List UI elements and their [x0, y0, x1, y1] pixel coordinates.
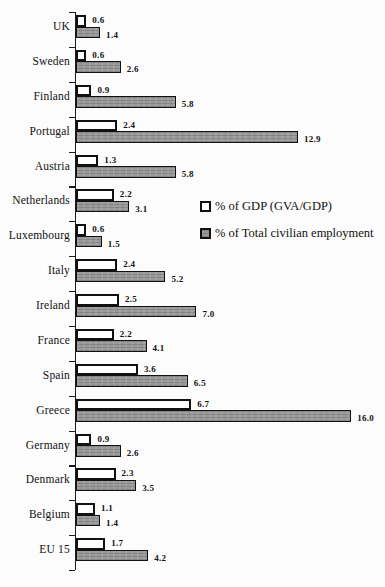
- legend-label-gdp: % of GDP (GVA/GDP): [215, 199, 332, 214]
- axis-tick: [69, 82, 75, 83]
- employment-value-label: 3.1: [135, 204, 147, 215]
- employment-value-label: 4.1: [153, 343, 165, 354]
- employment-bar: [76, 236, 102, 248]
- bar-chart: UK0.61.4Sweden0.62.6Finland0.95.8Portuga…: [0, 0, 385, 587]
- gdp-bar: [76, 399, 191, 411]
- gdp-value-label: 2.2: [120, 189, 132, 200]
- gdp-value-label: 2.4: [123, 259, 135, 270]
- employment-series-swatch-icon: [200, 228, 211, 239]
- employment-bar: [76, 375, 188, 387]
- employment-bar: [76, 131, 298, 143]
- employment-value-label: 3.5: [142, 483, 154, 494]
- employment-bar: [76, 61, 121, 73]
- category-label: Luxembourg: [0, 228, 70, 242]
- employment-bar: [76, 445, 121, 457]
- axis-tick: [69, 221, 75, 222]
- employment-value-label: 7.0: [202, 309, 214, 320]
- employment-bar: [76, 27, 100, 39]
- gdp-series-swatch-icon: [200, 201, 211, 212]
- axis-tick: [69, 535, 75, 536]
- employment-bar: [76, 550, 148, 562]
- gdp-bar: [76, 85, 91, 97]
- gdp-bar: [76, 189, 114, 201]
- employment-value-label: 5.2: [171, 274, 183, 285]
- category-label: Netherlands: [0, 193, 70, 207]
- axis-tick: [69, 396, 75, 397]
- gdp-value-label: 0.6: [92, 15, 104, 26]
- gdp-value-label: 0.6: [92, 50, 104, 61]
- legend-label-employment: % of Total civilian employment: [215, 226, 374, 241]
- gdp-bar: [76, 294, 119, 306]
- employment-bar: [76, 306, 196, 318]
- category-label: Italy: [0, 263, 70, 277]
- gdp-value-label: 0.6: [92, 224, 104, 235]
- employment-value-label: 5.8: [182, 169, 194, 180]
- gdp-value-label: 2.5: [125, 294, 137, 305]
- gdp-value-label: 0.9: [97, 85, 109, 96]
- employment-bar: [76, 480, 136, 492]
- category-label: UK: [0, 19, 70, 33]
- gdp-bar: [76, 15, 86, 27]
- axis-tick: [69, 570, 75, 571]
- gdp-bar: [76, 224, 86, 236]
- gdp-value-label: 2.3: [122, 468, 134, 479]
- axis-tick: [69, 47, 75, 48]
- employment-value-label: 5.8: [182, 99, 194, 110]
- axis-tick: [69, 326, 75, 327]
- employment-value-label: 2.6: [127, 448, 139, 459]
- category-label: Denmark: [0, 472, 70, 486]
- gdp-bar: [76, 503, 95, 515]
- gdp-value-label: 1.7: [111, 538, 123, 549]
- gdp-bar: [76, 50, 86, 62]
- category-label: Portugal: [0, 124, 70, 138]
- gdp-value-label: 6.7: [197, 399, 209, 410]
- gdp-value-label: 2.2: [120, 329, 132, 340]
- axis-tick: [69, 291, 75, 292]
- employment-bar: [76, 410, 351, 422]
- category-label: EU 15: [0, 542, 70, 556]
- employment-value-label: 2.6: [127, 64, 139, 75]
- legend: % of GDP (GVA/GDP) % of Total civilian e…: [200, 199, 374, 253]
- legend-item-gdp: % of GDP (GVA/GDP): [200, 199, 374, 213]
- axis-tick: [69, 152, 75, 153]
- gdp-value-label: 1.1: [101, 503, 113, 514]
- employment-value-label: 1.4: [106, 518, 118, 529]
- axis-tick: [69, 12, 75, 13]
- gdp-bar: [76, 259, 117, 271]
- category-label: Germany: [0, 438, 70, 452]
- category-label: France: [0, 333, 70, 347]
- employment-value-label: 1.5: [108, 239, 120, 250]
- employment-bar: [76, 96, 176, 108]
- gdp-value-label: 0.9: [97, 434, 109, 445]
- axis-tick: [69, 256, 75, 257]
- gdp-bar: [76, 120, 117, 132]
- axis-tick: [69, 186, 75, 187]
- axis-tick: [69, 465, 75, 466]
- axis-tick: [69, 361, 75, 362]
- gdp-bar: [76, 364, 138, 376]
- employment-bar: [76, 271, 165, 283]
- gdp-value-label: 1.3: [104, 155, 116, 166]
- employment-bar: [76, 201, 129, 213]
- employment-bar: [76, 166, 176, 178]
- employment-value-label: 4.2: [154, 553, 166, 564]
- gdp-bar: [76, 468, 116, 480]
- axis-tick: [69, 431, 75, 432]
- employment-value-label: 6.5: [194, 378, 206, 389]
- legend-item-employment: % of Total civilian employment: [200, 226, 374, 240]
- gdp-value-label: 3.6: [144, 364, 156, 375]
- employment-value-label: 1.4: [106, 30, 118, 41]
- category-label: Finland: [0, 89, 70, 103]
- category-label: Austria: [0, 159, 70, 173]
- employment-bar: [76, 515, 100, 527]
- employment-value-label: 16.0: [357, 413, 374, 424]
- gdp-bar: [76, 329, 114, 341]
- employment-value-label: 12.9: [304, 134, 321, 145]
- gdp-value-label: 2.4: [123, 120, 135, 131]
- gdp-bar: [76, 434, 91, 446]
- gdp-bar: [76, 155, 98, 167]
- category-label: Greece: [0, 403, 70, 417]
- category-label: Belgium: [0, 507, 70, 521]
- axis-tick: [69, 500, 75, 501]
- category-label: Spain: [0, 368, 70, 382]
